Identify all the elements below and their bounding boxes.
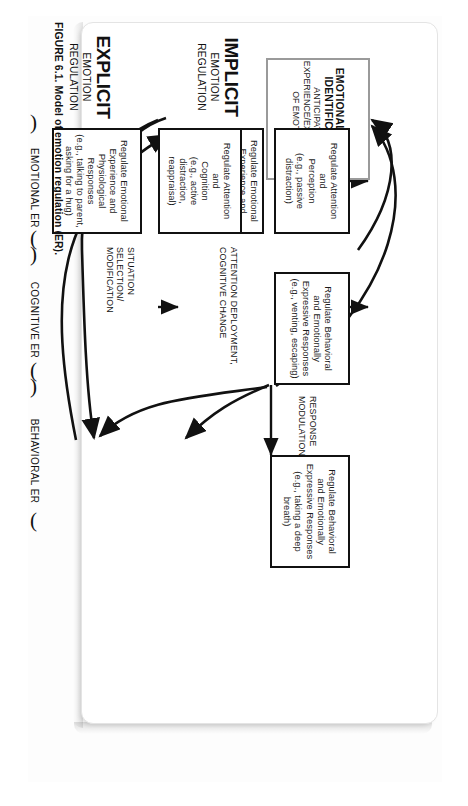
mode-sub-line-1: EMOTION	[79, 34, 92, 120]
node-line-3: Physiological Responses	[86, 134, 108, 228]
node-line-2: Experience and	[108, 134, 119, 228]
er-band-label-emotional: EMOTIONAL ER	[29, 140, 40, 236]
node-explicit-behavioral: Regulate Behavioral and Emotionally Expr…	[270, 455, 350, 568]
node-implicit-behavioral: Regulate Behavioral and Emotionally Expr…	[274, 272, 350, 385]
process-label-line-2: COGNITIVE CHANGE	[218, 247, 229, 365]
process-label-attention-deployment: ATTENTION DEPLOYMENT, COGNITIVE CHANGE	[218, 247, 239, 365]
diagram-connectors	[0, 0, 468, 806]
node-line-1: Regulate Attention	[329, 134, 340, 228]
node-explicit-cognitive: Regulate Attention and Cognition (e.g., …	[158, 128, 242, 234]
node-line-1: Regulate Emotional	[119, 134, 130, 228]
mode-sub-line-1: EMOTION	[207, 34, 220, 120]
process-label-line-1: SITUATION	[125, 247, 136, 313]
brace-open-cognitive-icon: (	[30, 247, 37, 268]
brace-open-emotional-icon: (	[30, 115, 37, 136]
figure-screenshot: EMOTIONAL EVENT IDENTIFICATION ANTICIPAT…	[0, 0, 468, 806]
node-line-2: and Emotionally	[312, 278, 323, 378]
node-example: (e.g., taking a deep breath)	[282, 461, 304, 562]
er-band-label-cognitive: COGNITIVE ER	[29, 272, 40, 368]
er-band-label-behavioral: BEHAVIORAL ER	[29, 406, 40, 516]
brace-open-behavioral-icon: (	[30, 379, 37, 400]
node-line-1: Regulate Behavioral	[323, 278, 334, 378]
figure-caption-text: Model of emotion regulation (ER).	[53, 86, 64, 256]
mode-heading-implicit: IMPLICIT EMOTION REGULATION	[195, 34, 243, 120]
node-example: (e.g., talking to parent, asking for a h…	[64, 134, 86, 228]
rotated-page: EMOTIONAL EVENT IDENTIFICATION ANTICIPAT…	[0, 0, 468, 806]
node-line-1: Regulate Behavioral	[327, 461, 338, 562]
node-example: (e.g., venting, escaping)	[290, 278, 301, 378]
mode-heading-explicit: EXPLICIT EMOTION REGULATION	[67, 34, 115, 120]
node-line-2: and	[211, 134, 222, 228]
process-label-line-3: MODIFICATION	[104, 247, 115, 313]
node-implicit-cognitive: Regulate Attention and Perception (e.g.,…	[274, 128, 350, 234]
process-label-response-modulation: RESPONSE MODULATION	[297, 396, 318, 456]
process-label-line-1: RESPONSE	[307, 396, 318, 456]
node-line-2: and	[318, 134, 329, 228]
node-line-1: Regulate Attention	[222, 134, 233, 228]
process-label-situation-selection: SITUATION SELECTION/ MODIFICATION	[104, 247, 136, 313]
mode-sub-line-2: REGULATION	[67, 34, 80, 120]
node-line-2: and Emotionally	[316, 461, 327, 562]
node-line-3: Expressive Responses	[304, 461, 315, 562]
node-explicit-emotional: Regulate Emotional Experience and Physio…	[52, 128, 142, 234]
mode-name: IMPLICIT	[220, 34, 242, 120]
mode-sub-line-2: REGULATION	[195, 34, 208, 120]
process-label-line-2: MODULATION	[297, 396, 308, 456]
node-example: (e.g., active distraction, reappraisal)	[167, 134, 200, 228]
node-line-3: Expressive Responses	[301, 278, 312, 378]
node-line-3: Perception	[306, 134, 317, 228]
figure-caption: FIGURE 6.1. Model of emotion regulation …	[53, 22, 64, 255]
process-label-line-1: ATTENTION DEPLOYMENT,	[228, 247, 239, 365]
node-example: (e.g., passive distraction)	[284, 134, 306, 228]
node-line-3: Cognition	[200, 134, 211, 228]
brace-close-behavioral-icon: )	[30, 513, 37, 534]
process-label-line-2: SELECTION/	[115, 247, 126, 313]
mode-name: EXPLICIT	[92, 34, 114, 120]
figure-caption-number: FIGURE 6.1.	[53, 22, 64, 83]
node-line-1: Regulate Emotional	[249, 134, 260, 228]
